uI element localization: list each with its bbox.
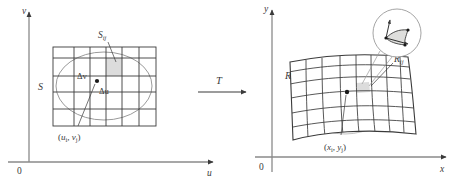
region-r-outline: [290, 55, 416, 140]
y-axis-label: y: [263, 4, 269, 14]
delta-v-label: Δv: [77, 71, 88, 81]
subpatch-rij-fill: [356, 82, 370, 93]
magnified-corner-dot-1: [384, 36, 387, 39]
sample-point-uv-label: (ui, vj): [58, 132, 81, 143]
delta-u-label: Δu: [99, 86, 110, 96]
figure-canvas: v u 0 Sij S: [0, 0, 451, 181]
sample-point-xy-dot: [345, 90, 349, 94]
x-axis-label: x: [439, 164, 445, 174]
subrectangle-sij-label: Sij: [98, 30, 107, 41]
left-origin-label: 0: [17, 166, 22, 176]
subrectangle-sij-fill: [106, 58, 122, 76]
sample-point-xy-label: (xi, yj): [324, 142, 346, 153]
right-panel-xy-plane: y x 0 R Rij: [255, 4, 446, 174]
uv-point-leader-line: [78, 84, 95, 126]
magnified-corner-dot-3: [403, 43, 406, 46]
sample-point-uv-dot: [95, 79, 99, 83]
transform-label: T: [216, 75, 223, 86]
region-s-label: S: [38, 81, 43, 92]
region-r-label: R: [284, 70, 291, 81]
transform-arrow-group: T: [198, 75, 246, 92]
left-panel-uv-plane: v u 0 Sij S: [8, 6, 213, 178]
magnified-corner-dot-2: [406, 28, 409, 31]
v-axis-label: v: [22, 6, 27, 16]
math-diagram-svg: v u 0 Sij S: [0, 0, 451, 181]
u-axis-label: u: [207, 168, 212, 178]
right-origin-label: 0: [259, 162, 264, 172]
